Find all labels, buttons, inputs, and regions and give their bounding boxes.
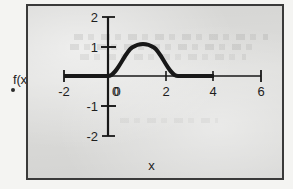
curve-arch-segment xyxy=(108,44,178,76)
origin-label: 0 xyxy=(112,84,119,99)
figure-root: f(x) -2 0 2 4 xyxy=(0,0,293,189)
x-axis-caption: x xyxy=(0,158,293,173)
x-tick-label: -2 xyxy=(58,84,70,99)
x-tick-label: 6 xyxy=(257,84,264,99)
y-tick-label: 1 xyxy=(91,40,98,55)
y-tick-label: -1 xyxy=(86,99,98,114)
x-tick-label: 4 xyxy=(209,84,216,99)
x-axis-caption-text: x xyxy=(148,158,155,173)
x-tick-label: 2 xyxy=(162,84,169,99)
y-tick-label: 2 xyxy=(91,10,98,25)
y-tick-label: -2 xyxy=(86,129,98,144)
